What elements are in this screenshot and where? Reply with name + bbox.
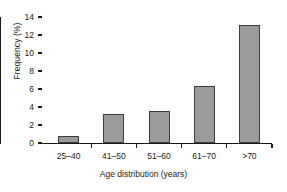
x-tick-label: >70 <box>219 152 279 161</box>
y-tick-mark <box>38 106 42 107</box>
y-tick-mark <box>38 124 42 125</box>
x-tick-mark <box>181 144 182 148</box>
y-tick-label: 8 <box>4 67 34 75</box>
x-tick-mark <box>271 144 272 148</box>
y-tick-mark <box>38 70 42 71</box>
y-tick-label: 2 <box>4 121 34 129</box>
y-tick-label: 10 <box>4 49 34 57</box>
y-tick-label: 0 <box>4 139 34 147</box>
y-tick-mark <box>38 34 42 35</box>
y-tick-mark <box>38 142 42 143</box>
y-tick-mark <box>38 52 42 53</box>
y-tick-label: 4 <box>4 103 34 111</box>
x-tick-mark <box>226 144 227 148</box>
y-tick-mark <box>38 16 42 17</box>
bar <box>239 25 260 143</box>
bar-chart-figure: Frequency (%) 02468101214 25–4041–5051–6… <box>0 0 287 192</box>
bar <box>103 114 124 143</box>
y-tick-label: 14 <box>4 13 34 21</box>
y-tick-mark <box>38 88 42 89</box>
y-tick-label: 12 <box>4 31 34 39</box>
y-tick-label: 6 <box>4 85 34 93</box>
x-axis-title: Age distribution (years) <box>0 169 287 179</box>
x-axis-line <box>38 143 272 144</box>
bar <box>149 111 170 143</box>
bar <box>194 86 215 143</box>
x-tick-mark <box>91 144 92 148</box>
y-axis-line <box>0 17 1 144</box>
x-tick-mark <box>136 144 137 148</box>
bar <box>58 136 79 143</box>
